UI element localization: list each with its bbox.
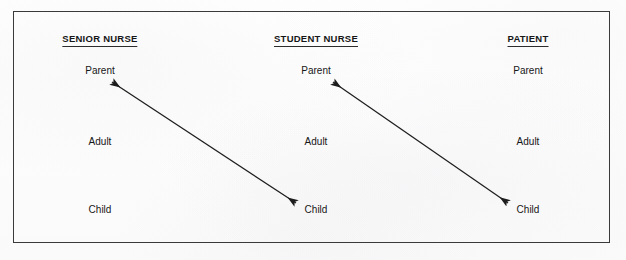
ego-state-student-nurse-adult: Adult <box>305 136 328 148</box>
ego-state-student-nurse-parent: Parent <box>301 65 330 77</box>
column-header-senior-nurse: SENIOR NURSE <box>62 33 137 47</box>
ego-state-patient-child: Child <box>517 204 540 216</box>
ego-state-patient-parent: Parent <box>513 65 542 77</box>
ego-state-senior-nurse-child: Child <box>89 204 112 216</box>
column-header-student-nurse: STUDENT NURSE <box>274 33 358 47</box>
column-header-patient: PATIENT <box>508 33 549 47</box>
ego-state-student-nurse-child: Child <box>305 204 328 216</box>
ego-state-patient-adult: Adult <box>517 136 540 148</box>
ego-state-senior-nurse-parent: Parent <box>85 65 114 77</box>
ego-state-senior-nurse-adult: Adult <box>89 136 112 148</box>
diagram-page: SENIOR NURSE STUDENT NURSE PATIENT Paren… <box>0 0 626 260</box>
